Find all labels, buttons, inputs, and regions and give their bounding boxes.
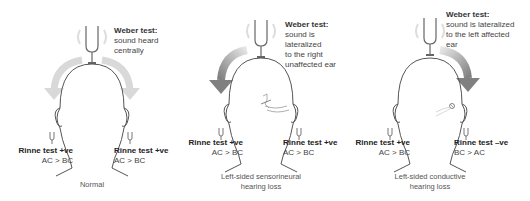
rinne-title: Rinne test +ve	[114, 146, 168, 156]
sound-arrow-right-lateralized-icon	[209, 50, 247, 94]
vibration-icon	[247, 24, 275, 38]
rinne-result: AC > BC	[350, 148, 410, 158]
weber-title: Weber test:	[114, 26, 158, 36]
weber-line: sound is lateralized	[446, 20, 514, 30]
caption-line: hearing loss	[360, 182, 500, 192]
rinne-result: AC > BC	[283, 148, 337, 158]
rinne-left-label: Rinne test +ve AC > BC	[177, 138, 243, 158]
middle-ear-block-icon	[436, 104, 455, 117]
panel-left-conductive: Weber test: sound is lateralized to the …	[350, 0, 530, 201]
rinne-right-label: Rinne test +ve AC > BC	[114, 146, 168, 166]
nerve-lesion-icon	[261, 94, 289, 112]
tuning-fork-icon	[424, 18, 436, 55]
ear-fork-left-icon	[50, 132, 54, 144]
sound-arrow-left-icon	[44, 60, 82, 100]
weber-line: sound is	[285, 30, 336, 40]
weber-test-label: Weber test: sound heard centrally	[114, 26, 158, 56]
rinne-result: AC > BC	[114, 156, 168, 166]
tuning-fork-icon	[86, 26, 98, 63]
caption-line: Left-sided conductive	[360, 172, 500, 182]
vibration-icon	[78, 30, 106, 44]
rinne-result: BC > AC	[454, 148, 508, 158]
rinne-title: Rinne test +ve	[15, 146, 73, 156]
panel-caption: Normal	[22, 180, 162, 190]
caption-line: hearing loss	[191, 182, 331, 192]
vibration-icon	[416, 24, 444, 38]
weber-line: lateralized	[285, 40, 336, 50]
weber-line: to the left affected	[446, 30, 514, 40]
rinne-result: AC > BC	[15, 156, 73, 166]
rinne-title: Rinne test +ve	[350, 138, 410, 148]
weber-title: Weber test:	[285, 20, 336, 30]
rinne-title: Rinne test –ve	[454, 138, 508, 148]
ear-fork-right-icon	[128, 132, 132, 144]
rinne-result: AC > BC	[177, 148, 243, 158]
rinne-left-label: Rinne test +ve AC > BC	[15, 146, 73, 166]
panel-caption: Left-sided sensorineural hearing loss	[191, 172, 331, 192]
panel-normal: Weber test: sound heard centrally Rinne …	[0, 0, 180, 201]
panel-caption: Left-sided conductive hearing loss	[360, 172, 500, 192]
weber-line: ear	[446, 40, 514, 50]
weber-line: to the right	[285, 50, 336, 60]
rinne-title: Rinne test +ve	[177, 138, 243, 148]
rinne-right-label: Rinne test +ve AC > BC	[283, 138, 337, 158]
weber-test-label: Weber test: sound is lateralized to the …	[285, 20, 336, 70]
rinne-title: Rinne test +ve	[283, 138, 337, 148]
panel-left-sensorineural: Weber test: sound is lateralized to the …	[175, 0, 355, 201]
rinne-left-label: Rinne test +ve AC > BC	[350, 138, 410, 158]
weber-line: sound heard	[114, 36, 158, 46]
sound-arrow-right-icon	[102, 60, 140, 100]
tuning-fork-icon	[255, 20, 267, 57]
weber-test-label: Weber test: sound is lateralized to the …	[446, 10, 514, 50]
caption-line: Normal	[22, 180, 162, 190]
weber-line: unaffected ear	[285, 60, 336, 70]
caption-line: Left-sided sensorineural	[191, 172, 331, 182]
weber-line: centrally	[114, 46, 158, 56]
rinne-right-label: Rinne test –ve BC > AC	[454, 138, 508, 158]
weber-title: Weber test:	[446, 10, 514, 20]
